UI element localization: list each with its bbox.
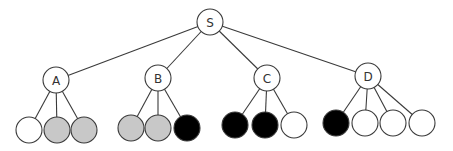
leaf-node-white [16,117,42,143]
node-C: C [254,65,280,91]
leaf-node-gray-circle [44,117,70,143]
edge-S-D [210,22,368,76]
leaf-node-gray-circle [145,115,171,141]
leaf-node-white [380,110,406,136]
node-D-label: D [363,70,372,84]
leaf-node-black [323,110,349,136]
leaf-node-white-circle [380,110,406,136]
leaf-node-black [222,112,248,138]
nodes: SABCD [16,9,435,143]
node-A: A [43,67,69,93]
node-root-S-label: S [206,16,214,30]
tree-canvas: SABCD [0,0,453,151]
leaf-node-white [281,112,307,138]
leaf-node-black-circle [222,112,248,138]
node-root-S: S [197,9,223,35]
leaf-node-black [252,112,278,138]
node-B-label: B [154,72,162,86]
leaf-node-black-circle [252,112,278,138]
leaf-node-gray [145,115,171,141]
node-B: B [145,65,171,91]
leaf-node-black-circle [323,110,349,136]
leaf-node-gray-circle [71,117,97,143]
leaf-node-white-circle [16,117,42,143]
leaf-node-gray [118,115,144,141]
leaf-node-white [409,110,435,136]
node-D: D [355,63,381,89]
edge-S-A [56,22,210,80]
leaf-node-white [352,110,378,136]
leaf-node-white-circle [409,110,435,136]
leaf-node-white-circle [352,110,378,136]
tree-diagram: SABCD [0,0,453,151]
leaf-node-black [174,115,200,141]
leaf-node-gray [71,117,97,143]
leaf-node-gray-circle [118,115,144,141]
leaf-node-gray [44,117,70,143]
leaf-node-white-circle [281,112,307,138]
leaf-node-black-circle [174,115,200,141]
node-C-label: C [263,72,271,86]
node-A-label: A [52,74,61,88]
